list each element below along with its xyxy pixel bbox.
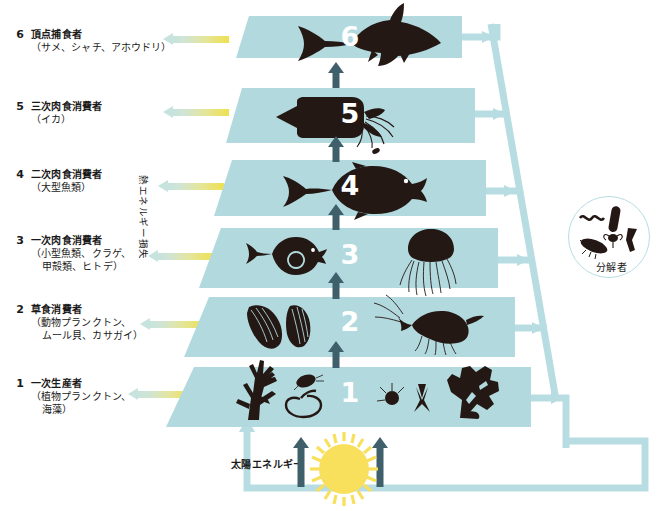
solar-energy-label: 太陽エネルギー [231, 456, 304, 471]
band-number-6: 6 [333, 23, 367, 50]
shark-icon [298, 3, 441, 66]
energy-flow-shaft-2-to-3 [333, 281, 340, 299]
coral-algae-icon [236, 360, 277, 420]
diatom-chain-icon [286, 391, 321, 417]
spirillum-icon [580, 216, 604, 219]
sun-core [319, 444, 369, 494]
rod-bacterium-icon [608, 206, 621, 233]
branched-bacterium-icon [626, 228, 637, 252]
band-number-5: 5 [333, 100, 367, 127]
decomposer-label: 分解者 [596, 259, 627, 274]
band-number-2: 2 [333, 308, 367, 335]
band-number-3: 3 [333, 241, 367, 268]
food-web-pyramid-diagram: 6 頂点捕食者 （サメ、シャチ、アホウドリ） 5 三次肉食消費者 （イカ） 4 … [0, 0, 667, 511]
copepod-icon [294, 372, 324, 390]
shrimp-icon [374, 295, 484, 355]
energy-flow-shaft-5-to-6 [333, 71, 340, 88]
mussels-icon [247, 305, 310, 348]
band-number-4: 4 [333, 172, 367, 199]
small-fish-icon [246, 237, 327, 275]
flagellate-icon [604, 234, 622, 248]
band-number-1: 1 [333, 379, 367, 406]
solar-arrowshaft-left [298, 447, 305, 487]
jellyfish-icon [400, 229, 456, 296]
energy-flow-shaft-1-to-2 [333, 350, 340, 368]
sun-icon [305, 430, 383, 510]
phytoplankton-icon [377, 383, 404, 405]
energy-flow-shaft-3-to-4 [333, 213, 340, 230]
energy-flow-shaft-4-to-5 [333, 145, 340, 162]
dinoflagellate-icon [414, 384, 430, 412]
seaweed-icon [447, 366, 499, 419]
